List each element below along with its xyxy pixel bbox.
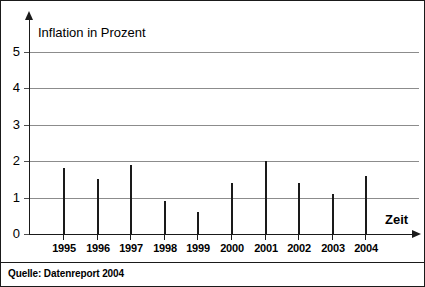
chart-figure: Inflation in Prozent 012345 199519961997… [0, 0, 425, 287]
x-axis-tick [197, 235, 198, 240]
y-axis-tick-label: 1 [0, 191, 20, 204]
y-axis-tick-label: 3 [0, 118, 20, 131]
bar [332, 194, 334, 234]
y-axis-tick-label: 5 [0, 45, 20, 58]
gridline [29, 198, 419, 199]
bar [365, 176, 367, 234]
chart-title: Inflation in Prozent [38, 25, 146, 40]
x-axis-tick [164, 235, 165, 240]
y-axis-line [29, 18, 30, 235]
y-axis-tick-label: 0 [0, 227, 20, 240]
plot-area: Inflation in Prozent 012345 199519961997… [0, 0, 425, 258]
gridline [29, 52, 419, 53]
source-note: Quelle: Datenreport 2004 [8, 268, 124, 279]
x-axis-tick [298, 235, 299, 240]
bar [130, 165, 132, 234]
x-axis-tick [231, 235, 232, 240]
bar [197, 212, 199, 234]
bar [164, 201, 166, 234]
footer-divider [1, 262, 424, 263]
y-axis-arrow-icon [25, 11, 33, 20]
x-axis-tick [332, 235, 333, 240]
x-axis-title: Zeit [385, 212, 408, 227]
x-axis-tick-label: 2004 [345, 242, 387, 254]
x-axis-tick [130, 235, 131, 240]
x-axis-tick [265, 235, 266, 240]
x-axis-arrow-icon [412, 230, 421, 238]
gridline [29, 125, 419, 126]
bar [63, 168, 65, 234]
x-axis-line [29, 234, 413, 235]
y-axis-tick-label: 2 [0, 154, 20, 167]
bar [97, 179, 99, 234]
bar [298, 183, 300, 234]
gridline [29, 161, 419, 162]
bar [231, 183, 233, 234]
x-axis-tick [97, 235, 98, 240]
bar [265, 161, 267, 234]
y-axis-tick-label: 4 [0, 81, 20, 94]
gridline [29, 88, 419, 89]
x-axis-tick [365, 235, 366, 240]
x-axis-tick [63, 235, 64, 240]
